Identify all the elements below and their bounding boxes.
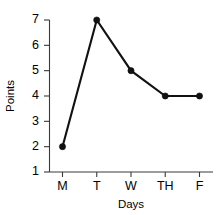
chart-canvas: 7 6 5 4 3 2 1 M T W TH F	[0, 0, 218, 215]
x-tick-label: TH	[157, 179, 174, 193]
x-tick-label: W	[125, 179, 137, 193]
x-tick-label: M	[57, 179, 67, 193]
data-point-marker	[196, 93, 202, 99]
data-point-marker	[59, 144, 65, 150]
y-tick-label: 7	[32, 12, 39, 26]
y-tick-label: 6	[32, 38, 39, 52]
x-axis-title: Days	[118, 198, 144, 210]
data-point-marker	[128, 68, 134, 74]
y-tick-label: 4	[32, 88, 39, 102]
y-axis-title: Points	[4, 80, 16, 112]
y-tick-label: 2	[32, 139, 39, 153]
line-chart: 7 6 5 4 3 2 1 M T W TH F	[0, 0, 218, 215]
chart-background	[0, 0, 218, 215]
y-tick-label: 5	[32, 63, 39, 77]
x-tick-label: T	[93, 179, 101, 193]
x-tick-label: F	[196, 179, 204, 193]
y-tick-label: 3	[32, 114, 39, 128]
y-tick-label: 1	[32, 164, 39, 178]
data-point-marker	[162, 93, 168, 99]
data-point-marker	[94, 17, 100, 23]
